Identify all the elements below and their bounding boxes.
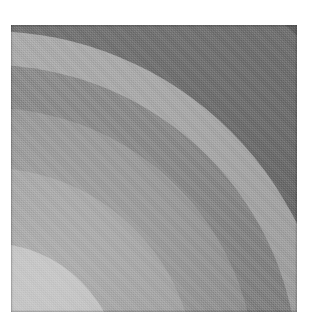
plate-tone-wash bbox=[11, 25, 297, 312]
figure-root bbox=[0, 0, 309, 324]
scanned-plate bbox=[11, 25, 297, 312]
caption-area bbox=[0, 312, 309, 324]
arc-band-diagram bbox=[11, 25, 297, 312]
